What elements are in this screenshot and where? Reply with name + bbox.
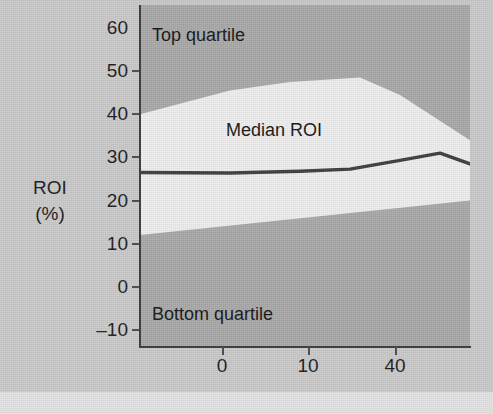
- y-axis-title-line1: ROI: [14, 175, 86, 201]
- y-axis-title: ROI (%): [14, 175, 86, 226]
- x-tick-10: [308, 347, 310, 355]
- y-tick-label-60: 60: [92, 18, 128, 37]
- y-tick-20: [132, 200, 139, 202]
- x-tick-40: [395, 347, 397, 355]
- y-tick-10: [132, 243, 139, 245]
- plot-area: [140, 5, 470, 347]
- y-tick-50: [132, 70, 139, 72]
- x-tick-label-0: 0: [217, 356, 228, 375]
- y-tick-label-50: 50: [92, 61, 128, 80]
- x-tick-label-10: 10: [297, 356, 318, 375]
- bottom-quartile-label: Bottom quartile: [152, 305, 273, 323]
- y-tick-–10: [132, 329, 139, 331]
- y-tick-label-40: 40: [92, 104, 128, 123]
- median-roi-label: Median ROI: [226, 121, 322, 139]
- x-axis-line: [139, 346, 471, 348]
- y-tick-label-–10: –10: [92, 320, 128, 339]
- chart-svg: [140, 5, 470, 347]
- y-tick-40: [132, 113, 139, 115]
- y-tick-labels: 6050403020100–10: [88, 0, 128, 414]
- y-tick-30: [132, 156, 139, 158]
- y-tick-label-20: 20: [92, 191, 128, 210]
- y-axis-line: [139, 5, 141, 348]
- y-tick-label-10: 10: [92, 234, 128, 253]
- x-tick-0: [222, 347, 224, 355]
- caption-strip: [0, 392, 493, 414]
- y-axis-title-line2: (%): [14, 201, 86, 227]
- figure-canvas: 6050403020100–10 01040 ROI (%) Top quart…: [0, 0, 493, 414]
- x-tick-label-40: 40: [384, 356, 405, 375]
- y-tick-label-0: 0: [92, 277, 128, 296]
- y-tick-0: [132, 286, 139, 288]
- top-quartile-label: Top quartile: [152, 26, 245, 44]
- y-tick-label-30: 30: [92, 147, 128, 166]
